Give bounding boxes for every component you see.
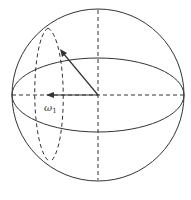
sphere-diagram: ω1 <box>0 0 191 200</box>
diagonal-vector-line <box>63 53 98 95</box>
omega-label: ω1 <box>44 102 57 115</box>
omega-arrowhead-icon <box>46 92 54 98</box>
